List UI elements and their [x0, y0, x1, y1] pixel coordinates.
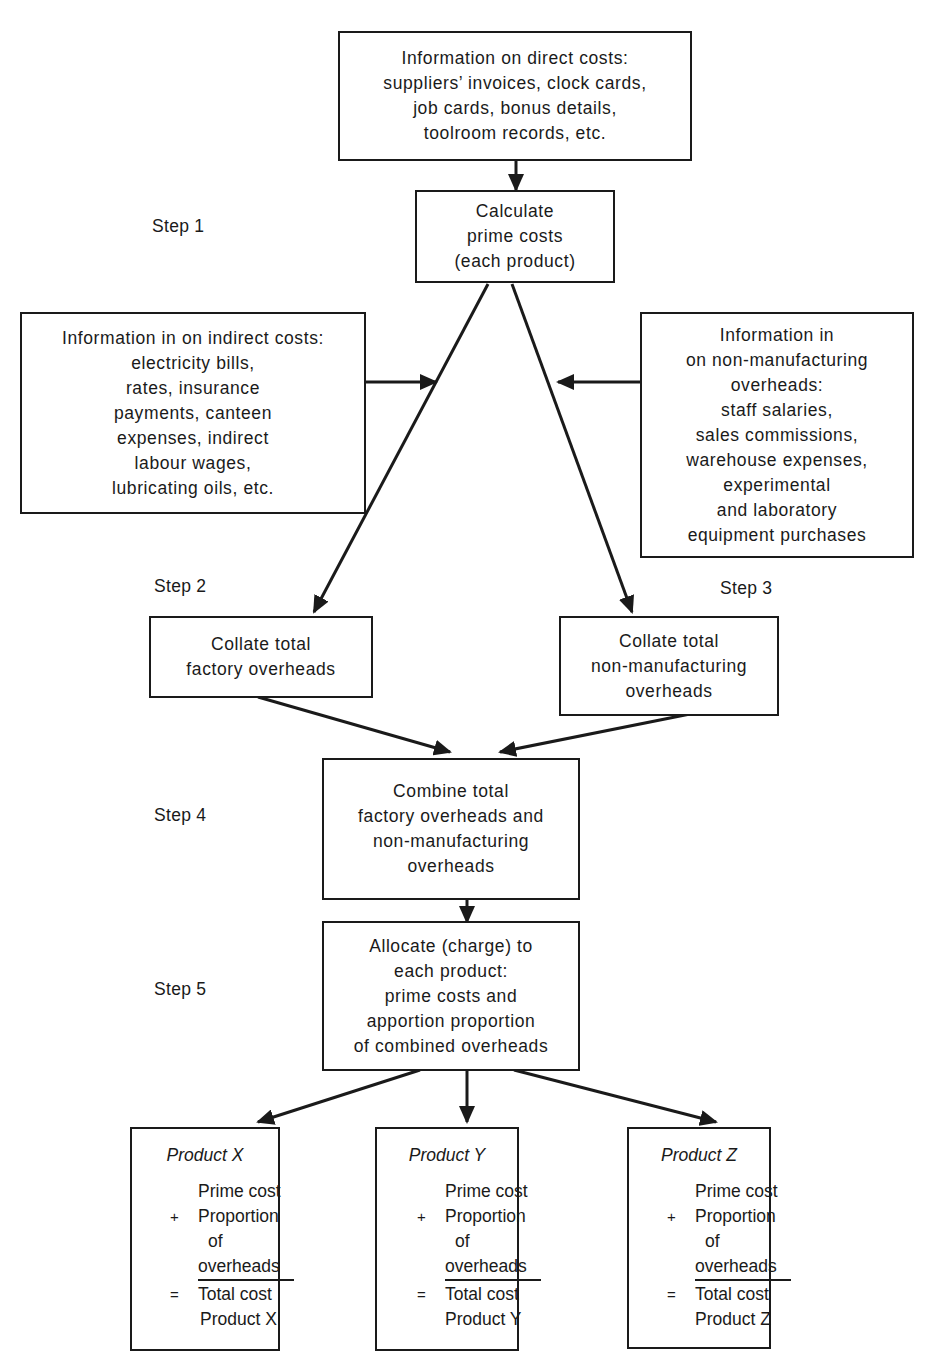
proportion-text: Proportion: [695, 1204, 776, 1229]
node-text: sales commissions,: [696, 423, 859, 448]
prime-cost-text: Prime cost: [445, 1179, 528, 1204]
node-text: and laboratory: [717, 498, 837, 523]
node-text: Allocate (charge) to: [369, 934, 533, 959]
node-text: job cards, bonus details,: [413, 96, 617, 121]
node-text: factory overheads and: [358, 804, 544, 829]
node-text: expenses, indirect: [117, 426, 269, 451]
node-text: staff salaries,: [721, 398, 833, 423]
overheads-text: overheads: [445, 1254, 527, 1279]
equals-sign: =: [667, 1282, 676, 1307]
node-text: prime costs: [467, 224, 563, 249]
sum-rule: [198, 1279, 294, 1281]
node-text: Information in: [720, 323, 834, 348]
product-title: Product X: [132, 1143, 278, 1168]
overheads-text: overheads: [695, 1254, 777, 1279]
node-text: warehouse expenses,: [686, 448, 868, 473]
step-2-label: Step 2: [154, 576, 206, 597]
prime-cost-text: Prime cost: [198, 1179, 281, 1204]
node-text: experimental: [723, 473, 830, 498]
product-y-box: Product Y Prime cost +Proportion of over…: [375, 1127, 519, 1351]
node-text: non-manufacturing: [591, 654, 747, 679]
total-cost-text: Total cost: [695, 1282, 769, 1307]
step-5-label: Step 5: [154, 979, 206, 1000]
product-title: Product Y: [377, 1143, 517, 1168]
total-product-text: Product Z: [695, 1307, 771, 1332]
equals-sign: =: [170, 1282, 179, 1307]
node-text: Information in on indirect costs:: [62, 326, 324, 351]
node-text: of combined overheads: [354, 1034, 549, 1059]
step-1-label: Step 1: [152, 216, 204, 237]
product-x-box: Product X Prime cost +Proportion of over…: [130, 1127, 280, 1351]
sum-rule: [445, 1279, 541, 1281]
node-text: overheads: [625, 679, 712, 704]
total-cost-text: Total cost: [445, 1282, 519, 1307]
plus-sign: +: [667, 1204, 676, 1229]
step-3-label: Step 3: [720, 578, 772, 599]
node-text: on non-manufacturing: [686, 348, 868, 373]
node-text: each product:: [394, 959, 508, 984]
node-text: suppliers’ invoices, clock cards,: [383, 71, 646, 96]
node-text: factory overheads: [186, 657, 335, 682]
total-product-text: Product X: [200, 1307, 277, 1332]
node-text: Collate total: [211, 632, 311, 657]
node-text: apportion proportion: [367, 1009, 536, 1034]
total-product-text: Product Y: [445, 1307, 522, 1332]
prime-cost-text: Prime cost: [695, 1179, 778, 1204]
node-text: Information on direct costs:: [402, 46, 629, 71]
plus-sign: +: [170, 1204, 179, 1229]
of-text: of: [208, 1229, 223, 1254]
node-prime-costs: Calculate prime costs (each product): [415, 190, 615, 283]
node-text: equipment purchases: [688, 523, 867, 548]
of-text: of: [705, 1229, 720, 1254]
step-4-label: Step 4: [154, 805, 206, 826]
node-text: rates, insurance: [126, 376, 260, 401]
overheads-text: overheads: [198, 1254, 280, 1279]
node-indirect-costs: Information in on indirect costs: electr…: [20, 312, 366, 514]
sum-rule: [695, 1279, 791, 1281]
proportion-text: Proportion: [445, 1204, 526, 1229]
node-text: lubricating oils, etc.: [112, 476, 274, 501]
node-combine: Combine total factory overheads and non-…: [322, 758, 580, 900]
node-allocate: Allocate (charge) to each product: prime…: [322, 921, 580, 1071]
node-text: Calculate: [476, 199, 554, 224]
node-text: Combine total: [393, 779, 509, 804]
node-text: toolroom records, etc.: [424, 121, 606, 146]
node-text: Collate total: [619, 629, 719, 654]
node-factory-overheads: Collate total factory overheads: [149, 616, 373, 698]
product-z-box: Product Z Prime cost +Proportion of over…: [627, 1127, 771, 1349]
node-text: overheads: [407, 854, 494, 879]
proportion-text: Proportion: [198, 1204, 279, 1229]
node-text: electricity bills,: [131, 351, 255, 376]
plus-sign: +: [417, 1204, 426, 1229]
of-text: of: [455, 1229, 470, 1254]
node-text: prime costs and: [385, 984, 518, 1009]
node-text: labour wages,: [135, 451, 252, 476]
node-text: non-manufacturing: [373, 829, 529, 854]
product-title: Product Z: [629, 1143, 769, 1168]
equals-sign: =: [417, 1282, 426, 1307]
node-direct-costs: Information on direct costs: suppliers’ …: [338, 31, 692, 161]
node-non-manufacturing-info: Information in on non-manufacturing over…: [640, 312, 914, 558]
node-text: (each product): [454, 249, 575, 274]
node-text: payments, canteen: [114, 401, 272, 426]
node-nonmfg-overheads: Collate total non-manufacturing overhead…: [559, 616, 779, 716]
total-cost-text: Total cost: [198, 1282, 272, 1307]
node-text: overheads:: [731, 373, 824, 398]
